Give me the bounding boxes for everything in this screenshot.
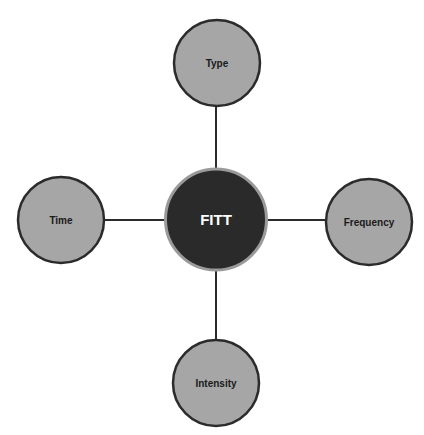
- node-type-label: Type: [206, 58, 229, 69]
- node-center-fitt: FITT: [166, 169, 267, 270]
- node-intensity: Intensity: [173, 340, 259, 426]
- node-intensity-label: Intensity: [195, 378, 237, 389]
- fitt-diagram: Type Frequency Intensity Time FITT: [0, 0, 424, 435]
- node-frequency: Frequency: [326, 179, 412, 265]
- node-type: Type: [174, 20, 260, 106]
- center-label: FITT: [200, 211, 232, 228]
- node-frequency-label: Frequency: [344, 217, 395, 228]
- node-time: Time: [18, 177, 104, 263]
- node-time-label: Time: [49, 215, 73, 226]
